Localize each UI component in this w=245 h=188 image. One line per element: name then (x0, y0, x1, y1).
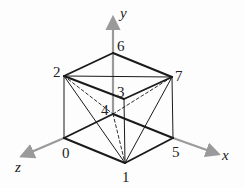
vertex-label-0: 0 (62, 145, 70, 161)
cube-figure: yxz 01234567 (0, 0, 245, 188)
cube-edges (64, 53, 173, 163)
vertex-label-4: 4 (101, 102, 109, 118)
vertex-label-7: 7 (175, 68, 183, 84)
vertex-label-3: 3 (117, 84, 125, 100)
thin-edge-2-7 (64, 76, 172, 77)
bold-edge-6-7 (113, 53, 172, 77)
thin-edge-1-3 (124, 99, 125, 163)
z-axis (22, 138, 64, 156)
bold-edge-3-7 (124, 77, 172, 99)
dashed-edge-4-1 (113, 114, 125, 163)
vertex-label-6: 6 (117, 38, 125, 54)
x-axis-label: x (221, 147, 229, 163)
bold-edge-4-5 (113, 114, 173, 138)
bold-edge-2-6 (64, 53, 113, 76)
z-axis-label: z (14, 159, 21, 175)
vertex-labels: 01234567 (53, 38, 183, 185)
thin-edge-5-7 (172, 77, 173, 138)
vertex-label-5: 5 (172, 144, 180, 160)
vertex-label-1: 1 (122, 169, 130, 185)
x-axis (173, 138, 218, 154)
vertex-label-2: 2 (53, 64, 61, 80)
y-axis-label: y (118, 5, 127, 21)
cube-diagram: yxz 01234567 (0, 0, 245, 188)
bold-edge-2-3 (64, 76, 124, 99)
